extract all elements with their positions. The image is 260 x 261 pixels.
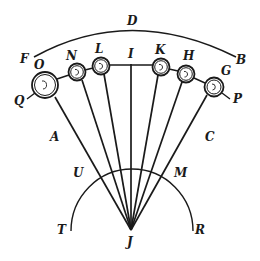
label-i: I (127, 47, 134, 61)
label-c: C (205, 130, 215, 144)
label-f: F (19, 52, 30, 66)
label-k: K (154, 43, 166, 57)
circle-k (153, 59, 170, 76)
geometric-diagram: D F B O N L I K H G Q P A C U M T R J (0, 0, 260, 261)
label-h: H (182, 49, 195, 63)
circle-n (69, 64, 86, 81)
circle-o (32, 72, 58, 98)
circle-l (93, 58, 110, 75)
label-b: B (235, 53, 246, 67)
label-n: N (65, 49, 78, 63)
circle-h (178, 66, 195, 83)
diagram-canvas: D F B O N L I K H G Q P A C U M T R J (0, 0, 260, 261)
rays-from-j (55, 64, 207, 230)
label-u: U (73, 166, 85, 180)
circle-g (205, 78, 224, 97)
top-arc-fdb (34, 31, 236, 58)
label-r: R (194, 223, 205, 237)
label-d: D (126, 14, 138, 28)
label-j: J (125, 235, 134, 249)
label-g: G (221, 64, 231, 78)
label-p: P (232, 92, 243, 106)
label-t: T (57, 223, 67, 237)
label-m: M (173, 166, 188, 180)
label-q: Q (14, 94, 25, 108)
label-l: L (94, 42, 103, 56)
label-o: O (34, 58, 45, 72)
label-a: A (49, 130, 59, 144)
